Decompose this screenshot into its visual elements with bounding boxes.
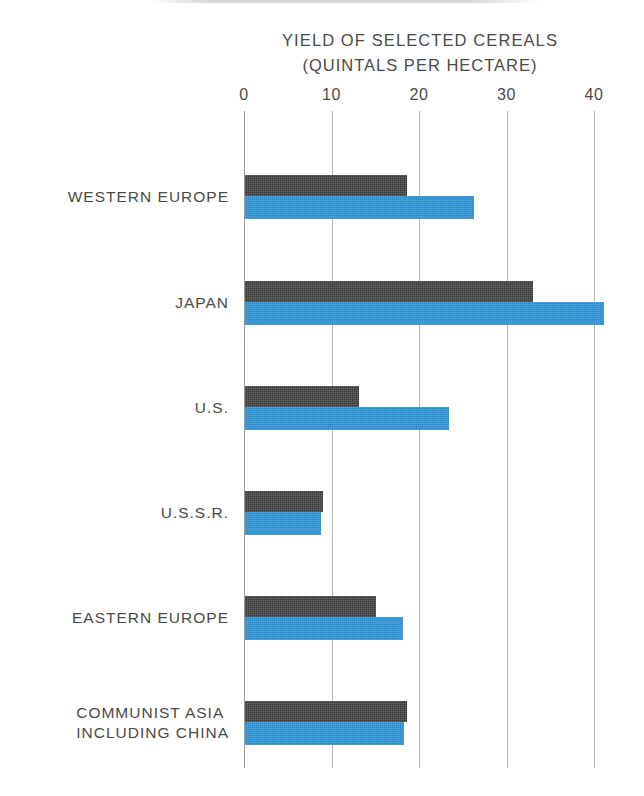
bar-blue-0 <box>245 196 474 219</box>
gridline-30 <box>507 111 508 768</box>
x-tick-label-40: 40 <box>585 86 604 104</box>
bar-dark-1 <box>245 281 533 302</box>
category-label-2: U.S. <box>195 398 229 418</box>
category-label-0: WESTERN EUROPE <box>68 187 229 207</box>
category-label-line1-0: WESTERN EUROPE <box>68 188 229 205</box>
bar-dark-2 <box>245 386 359 407</box>
category-label-4: EASTERN EUROPE <box>72 608 229 628</box>
bar-dark-4 <box>245 596 376 617</box>
x-tick-label-30: 30 <box>497 86 516 104</box>
category-label-line1-5: COMMUNIST ASIA <box>76 704 224 721</box>
x-tick-label-10: 10 <box>322 86 341 104</box>
bar-blue-1 <box>245 302 604 325</box>
category-label-line1-3: U.S.S.R. <box>161 504 229 521</box>
category-label-line1-2: U.S. <box>195 399 229 416</box>
category-label-3: U.S.S.R. <box>161 503 229 523</box>
category-label-1: JAPAN <box>175 293 229 313</box>
chart-plot-area: 010203040WESTERN EUROPEJAPANU.S.U.S.S.R.… <box>0 0 644 796</box>
bar-blue-2 <box>245 407 449 430</box>
gridline-40 <box>594 111 595 768</box>
category-label-line1-4: EASTERN EUROPE <box>72 609 229 626</box>
bar-blue-3 <box>245 512 321 535</box>
category-label-5: COMMUNIST ASIAINCLUDING CHINA <box>76 703 229 743</box>
x-tick-label-20: 20 <box>410 86 429 104</box>
category-label-line2-5: INCLUDING CHINA <box>76 723 229 743</box>
bar-dark-3 <box>245 491 323 512</box>
category-label-line1-1: JAPAN <box>175 294 229 311</box>
bar-dark-5 <box>245 701 407 722</box>
bar-blue-4 <box>245 617 403 640</box>
bar-blue-5 <box>245 722 404 745</box>
x-tick-label-0: 0 <box>239 86 249 104</box>
bar-dark-0 <box>245 175 407 196</box>
